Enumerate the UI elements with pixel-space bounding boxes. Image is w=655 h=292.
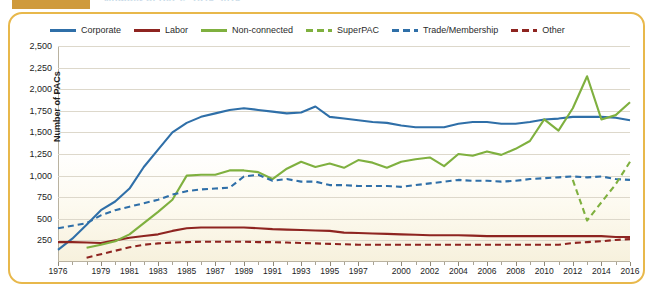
x-tick-label: 1976	[49, 266, 68, 276]
x-tick-mark-minor	[559, 262, 560, 265]
x-tick-mark-minor	[501, 262, 502, 265]
x-tick-mark-minor	[230, 262, 231, 265]
x-tick-label: 2002	[420, 266, 439, 276]
x-tick-mark-minor	[416, 262, 417, 265]
legend-item-trade-membership[interactable]: Trade/Membership	[392, 25, 498, 35]
series-line-labor	[58, 227, 630, 243]
y-tick-label: 750	[8, 192, 52, 202]
legend-label: Labor	[165, 25, 188, 35]
x-tick-label: 2006	[478, 266, 497, 276]
chart-legend: CorporateLaborNon-connectedSuperPACTrade…	[50, 22, 630, 38]
legend-swatch-solid	[50, 29, 76, 32]
legend-item-other[interactable]: Other	[511, 25, 565, 35]
x-tick-mark-minor	[444, 262, 445, 265]
x-tick-mark-minor	[172, 262, 173, 265]
x-tick-mark-minor	[115, 262, 116, 265]
legend-label: Corporate	[81, 25, 121, 35]
series-lines	[58, 46, 630, 262]
x-tick-mark-minor	[616, 262, 617, 265]
y-tick-label: 1,500	[8, 127, 52, 137]
y-tick-label: 2,500	[8, 41, 52, 51]
x-tick-label: 1985	[177, 266, 196, 276]
y-tick-label: 1,000	[8, 171, 52, 181]
legend-label: SuperPAC	[337, 25, 379, 35]
series-line-trade-membership	[58, 175, 630, 229]
title-color-swatch	[12, 0, 90, 9]
x-tick-label: 1991	[263, 266, 282, 276]
x-tick-mark-minor	[587, 262, 588, 265]
plot-area: Number of PACs 2,5002,2502,0001,7501,500…	[58, 46, 630, 262]
x-tick-mark-minor	[473, 262, 474, 265]
x-tick-mark-minor	[530, 262, 531, 265]
legend-swatch-dashed	[392, 29, 418, 32]
x-tick-mark-minor	[315, 262, 316, 265]
x-tick-mark-minor	[387, 262, 388, 265]
legend-item-superpac[interactable]: SuperPAC	[306, 25, 379, 35]
legend-label: Trade/Membership	[423, 25, 498, 35]
legend-label: Non-connected	[232, 25, 293, 35]
y-tick-label: 1,250	[8, 149, 52, 159]
x-tick-mark-minor	[373, 262, 374, 265]
page-title: Number of PACs, 1976-2016	[104, 0, 241, 7]
x-tick-mark-minor	[201, 262, 202, 265]
x-tick-mark-minor	[258, 262, 259, 265]
y-tick-label: 250	[8, 235, 52, 245]
x-tick-label: 1979	[91, 266, 110, 276]
x-tick-label: 1981	[120, 266, 139, 276]
legend-swatch-solid	[134, 29, 160, 32]
x-tick-mark-minor	[72, 262, 73, 265]
series-line-non-connected	[87, 76, 630, 248]
x-tick-mark-minor	[344, 262, 345, 265]
y-tick-label: 500	[8, 214, 52, 224]
x-tick-label: 2000	[392, 266, 411, 276]
x-tick-label: 1983	[149, 266, 168, 276]
x-tick-label: 2004	[449, 266, 468, 276]
y-tick-label: 2,000	[8, 84, 52, 94]
x-tick-mark-minor	[87, 262, 88, 265]
x-tick-label: 2016	[621, 266, 640, 276]
legend-label: Other	[542, 25, 565, 35]
series-line-corporate	[58, 106, 630, 249]
x-tick-label: 2010	[535, 266, 554, 276]
x-tick-label: 1995	[320, 266, 339, 276]
x-tick-label: 2008	[506, 266, 525, 276]
y-tick-label: 2,250	[8, 63, 52, 73]
legend-item-non-connected[interactable]: Non-connected	[201, 25, 293, 35]
x-tick-label: 2014	[592, 266, 611, 276]
legend-item-corporate[interactable]: Corporate	[50, 25, 121, 35]
x-tick-mark-minor	[144, 262, 145, 265]
legend-swatch-dashed	[306, 29, 332, 32]
chart-screenshot: Number of PACs, 1976-2016 CorporateLabor…	[0, 0, 655, 292]
x-tick-label: 2012	[563, 266, 582, 276]
x-tick-label: 1987	[206, 266, 225, 276]
x-tick-label: 1989	[234, 266, 253, 276]
y-tick-label: 1,750	[8, 106, 52, 116]
series-line-other	[87, 239, 630, 258]
legend-item-labor[interactable]: Labor	[134, 25, 188, 35]
x-tick-label: 1993	[292, 266, 311, 276]
series-line-superpac	[573, 162, 630, 221]
x-tick-label: 1997	[349, 266, 368, 276]
legend-swatch-solid	[201, 29, 227, 32]
x-tick-mark-minor	[287, 262, 288, 265]
legend-swatch-dashed	[511, 29, 537, 32]
